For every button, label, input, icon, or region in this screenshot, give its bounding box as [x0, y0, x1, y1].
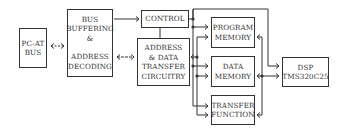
block-label: PROGRAM	[213, 23, 254, 33]
arrow-buffer-to-address	[117, 55, 134, 60]
block-label: DATA	[223, 62, 244, 72]
block-label: BUS	[25, 48, 42, 58]
block-label: DECODING	[68, 62, 112, 72]
block-label: MEMORY	[215, 72, 251, 82]
block-label: MEMORY	[215, 33, 251, 43]
block-label: TMS320C25	[282, 72, 328, 82]
control-block: CONTROL	[141, 10, 189, 28]
arrow-buffer-to-control	[114, 17, 139, 22]
block-label: ADDRESS	[71, 52, 109, 62]
block-label: PC-AT	[22, 39, 45, 49]
block-label: BUS	[82, 15, 99, 25]
block-label: TRANSFER	[211, 101, 254, 111]
block-label: BUFFERING	[66, 24, 114, 34]
block-diagram: PC-AT BUS BUS BUFFERING & ADDRESS DECODI…	[0, 0, 348, 134]
bus-buffering-block: BUS BUFFERING & ADDRESS DECODING	[67, 9, 113, 77]
block-label: TRANSFER	[142, 62, 185, 72]
arrow-pcat-to-buffer	[51, 44, 64, 49]
block-label: FUNCTION	[211, 110, 254, 120]
data-memory-block: DATA MEMORY	[211, 56, 255, 87]
program-memory-block: PROGRAM MEMORY	[211, 17, 255, 48]
transfer-function-block: TRANSFER FUNCTION	[211, 95, 255, 125]
address-data-transfer-block: ADDRESS & DATA TRANSFER CIRCUITRY	[137, 38, 190, 86]
block-label: ADDRESS	[145, 43, 183, 53]
dsp-block: DSP TMS320C25	[282, 57, 329, 87]
block-label: DSP	[298, 63, 314, 73]
pc-at-bus-block: PC-AT BUS	[19, 28, 47, 68]
block-label: CIRCUITRY	[142, 72, 186, 82]
block-label: & DATA	[149, 53, 178, 63]
block-label: &	[87, 34, 94, 44]
block-label: CONTROL	[145, 14, 184, 24]
